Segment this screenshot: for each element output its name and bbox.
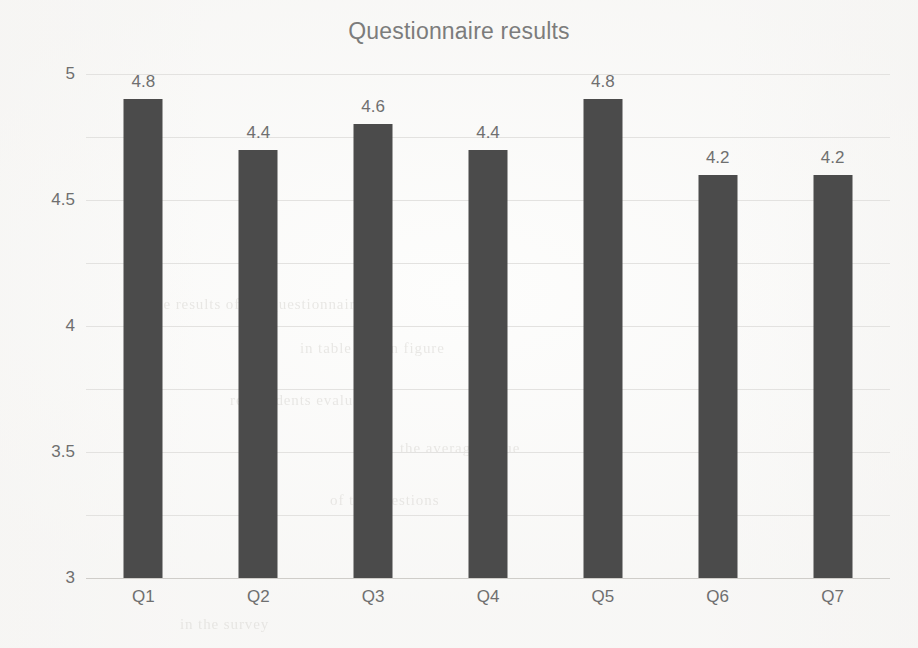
gridline: 5 (86, 74, 890, 75)
y-axis-tick-label: 3 (66, 568, 75, 588)
bar[interactable] (698, 175, 737, 578)
x-axis-line: 1 (86, 578, 890, 579)
bar-value-label: 4.2 (821, 148, 845, 168)
bar-value-label: 4.8 (591, 72, 615, 92)
bar-value-label: 4.4 (476, 123, 500, 143)
x-axis-tick-label: Q6 (706, 587, 729, 607)
x-axis-tick-label: Q7 (821, 587, 844, 607)
chart-title: Questionnaire results (0, 18, 918, 45)
bar-value-label: 4.8 (132, 72, 156, 92)
bar[interactable] (583, 99, 622, 578)
bar-value-label: 4.4 (246, 123, 270, 143)
bar[interactable] (469, 150, 508, 578)
y-axis-tick-label: 5 (66, 64, 75, 84)
bar[interactable] (354, 124, 393, 578)
bar-value-label: 4.6 (361, 97, 385, 117)
plot-area: 54.543.532.521.514.8Q14.4Q24.6Q34.4Q44.8… (86, 74, 890, 578)
bar[interactable] (239, 150, 278, 578)
bar[interactable] (124, 99, 163, 578)
y-axis-tick-label: 4.5 (51, 190, 75, 210)
x-axis-tick-label: Q2 (247, 587, 270, 607)
bar-value-label: 4.2 (706, 148, 730, 168)
x-axis-tick-label: Q5 (592, 587, 615, 607)
x-axis-tick-label: Q1 (132, 587, 155, 607)
x-axis-tick-label: Q4 (477, 587, 500, 607)
y-axis-tick-label: 3.5 (51, 442, 75, 462)
bar-chart: Questionnaire results 54.543.532.521.514… (0, 0, 918, 648)
bar[interactable] (813, 175, 852, 578)
y-axis-tick-label: 4 (66, 316, 75, 336)
x-axis-tick-label: Q3 (362, 587, 385, 607)
